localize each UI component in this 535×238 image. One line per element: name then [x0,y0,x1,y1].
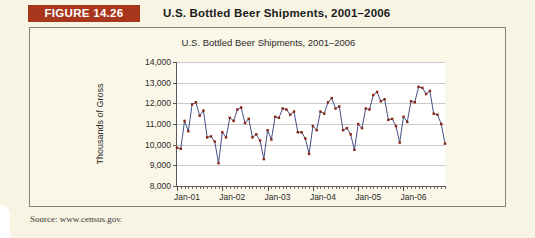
x-axis-minor-tick [441,186,442,189]
figure-header: FIGURE 14.26 U.S. Bottled Beer Shipments… [0,5,535,27]
data-point-marker [436,114,438,116]
data-point-marker [236,108,238,110]
data-point-marker [346,127,348,129]
x-axis-minor-tick [256,186,257,189]
y-axis-tick-label: 11,000 [146,119,171,129]
data-point-marker [334,107,336,109]
data-point-marker [304,137,306,139]
x-axis-minor-tick [196,186,197,189]
x-axis-minor-tick [203,186,204,189]
x-axis-minor-tick [426,186,427,189]
figure-caption: U.S. Bottled Beer Shipments, 2001–2006 [163,5,390,22]
x-axis-tick-label: Jan-03 [265,192,291,202]
x-axis-minor-tick [351,186,352,189]
data-point-marker [206,136,208,138]
x-axis-minor-tick [343,186,344,189]
x-axis-minor-tick [286,186,287,189]
data-point-marker [187,130,189,132]
data-point-marker [315,129,317,131]
x-axis-major-tick [403,186,404,191]
x-axis-minor-tick [237,186,238,189]
data-point-marker [263,158,265,160]
x-axis-minor-tick [290,186,291,189]
y-axis-tick-label: 9,000 [150,160,171,170]
data-point-marker [289,114,291,116]
x-axis-major-tick [358,186,359,191]
x-axis-minor-tick [230,186,231,189]
data-point-marker [300,131,302,133]
data-point-marker [402,116,404,118]
y-axis-tick-label: 10,000 [145,140,171,150]
data-point-marker [406,121,408,123]
y-axis-title: Thousands of Gross [94,62,106,186]
x-axis-minor-tick [362,186,363,189]
data-point-marker [338,105,340,107]
data-point-marker [217,162,219,164]
x-axis-minor-tick [437,186,438,189]
data-point-marker [183,120,185,122]
figure-root: FIGURE 14.26 U.S. Bottled Beer Shipments… [0,0,535,238]
data-point-marker [380,100,382,102]
data-point-marker [365,107,367,109]
x-axis-tick-label: Jan-01 [174,192,200,202]
data-point-marker [383,98,385,100]
x-axis-minor-tick [385,186,386,189]
x-axis-minor-tick [185,186,186,189]
data-point-marker [410,100,412,102]
data-point-marker [323,112,325,114]
data-point-marker [202,109,204,111]
plot-area: 8,0009,00010,00011,00012,00013,00014,000… [176,62,445,187]
data-point-marker [327,101,329,103]
data-point-marker [270,138,272,140]
source-note: Source: www.census.gov. [30,214,122,224]
data-point-marker [229,117,231,119]
data-point-marker [259,139,261,141]
chart-plot-wrapper: Thousands of Gross 8,0009,00010,00011,00… [30,28,507,208]
data-point-marker [221,131,223,133]
x-axis-minor-tick [234,186,235,189]
data-point-marker [232,120,234,122]
y-axis-tick-label: 14,000 [145,57,171,67]
series-polyline [177,87,445,163]
data-point-marker [248,118,250,120]
x-axis-minor-tick [419,186,420,189]
data-point-marker [312,125,314,127]
x-axis-minor-tick [422,186,423,189]
data-point-marker [421,87,423,89]
data-point-marker [342,129,344,131]
x-axis-minor-tick [392,186,393,189]
x-axis-minor-tick [317,186,318,189]
x-axis-minor-tick [181,186,182,189]
data-point-marker [285,108,287,110]
data-point-marker [429,90,431,92]
data-point-marker [444,142,446,144]
x-axis-minor-tick [188,186,189,189]
x-axis-minor-tick [347,186,348,189]
data-point-marker [278,117,280,119]
data-point-marker [353,149,355,151]
data-point-marker [432,112,434,114]
data-series-line [177,62,445,186]
x-axis-minor-tick [388,186,389,189]
x-axis-minor-tick [260,186,261,189]
data-point-marker [210,135,212,137]
data-point-marker [391,118,393,120]
x-axis-minor-tick [302,186,303,189]
x-axis-minor-tick [396,186,397,189]
data-point-marker [240,106,242,108]
x-axis-minor-tick [275,186,276,189]
y-axis-tick-label: 13,000 [145,78,171,88]
x-axis-minor-tick [366,186,367,189]
data-point-marker [274,116,276,118]
data-point-marker [319,110,321,112]
data-point-marker [195,101,197,103]
data-point-marker [297,131,299,133]
data-point-marker [244,122,246,124]
x-axis-minor-tick [305,186,306,189]
data-point-marker [293,110,295,112]
data-point-marker [372,94,374,96]
x-axis-minor-tick [211,186,212,189]
x-axis-minor-tick [339,186,340,189]
x-axis-minor-tick [245,186,246,189]
data-point-marker [214,140,216,142]
